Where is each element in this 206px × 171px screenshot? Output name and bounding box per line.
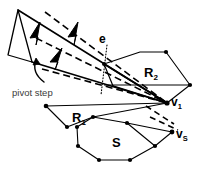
vertex-dot-R2-top xyxy=(164,50,168,54)
label-region-R2: R2 xyxy=(144,66,158,79)
polygon-S-vertex-2 xyxy=(76,144,80,148)
connector-vS-to-S xyxy=(155,132,172,146)
label-region-R1-subscript: 1 xyxy=(81,118,85,127)
vertex-dot-R1-bottom xyxy=(65,125,69,129)
label-vertex-v1-subscript: 1 xyxy=(178,102,182,111)
ray-arrowhead-bottom xyxy=(50,48,62,70)
label-vertex-vS-base: v xyxy=(176,127,183,141)
label-region-R1-base: R xyxy=(72,110,81,125)
region-R1-outline xyxy=(46,103,167,127)
region-R1-top-edge xyxy=(46,103,167,106)
vertex-dot-R2-left xyxy=(102,62,106,66)
vertex-dot-R2-right xyxy=(188,83,192,87)
label-region-R1: R1 xyxy=(72,111,86,124)
label-vertex-v1: v1 xyxy=(171,96,182,108)
label-vertex-vS-subscript: S xyxy=(183,134,188,143)
label-polygon-S: S xyxy=(112,136,121,149)
pivot-step-arrowhead xyxy=(33,58,40,65)
vertex-vS-dot xyxy=(170,130,175,135)
label-vertex-vS: vS xyxy=(176,128,188,140)
diagram-vector-layer xyxy=(0,0,206,171)
connector-to-vS xyxy=(127,123,172,132)
upper-left-wedge xyxy=(8,10,32,62)
vertex-v1-dot xyxy=(164,100,169,105)
label-region-R2-base: R xyxy=(144,65,153,80)
label-edge-e: e xyxy=(99,33,106,45)
label-region-R2-subscript: 2 xyxy=(153,73,157,82)
diagram-canvas: e R2 R1 S v1 vS pivot step xyxy=(0,0,206,171)
polygon-S-vertex-4 xyxy=(128,158,132,162)
polygon-S-vertex-1 xyxy=(75,125,79,129)
label-vertex-v1-base: v xyxy=(171,95,178,109)
polygon-S-vertex-3 xyxy=(97,158,101,162)
label-pivot-step: pivot step xyxy=(12,88,53,98)
vertex-dot-R1-left xyxy=(44,104,49,109)
ray-arrowhead-left xyxy=(30,22,40,45)
